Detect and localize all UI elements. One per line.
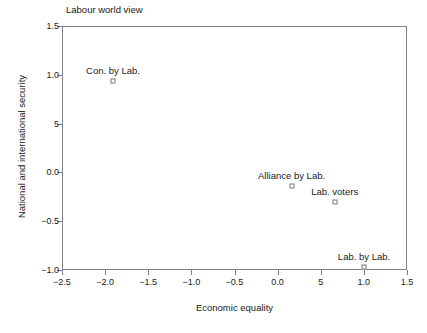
x-tick-label: −1.0 [182, 277, 200, 287]
x-tick-mark [191, 270, 192, 275]
data-point-marker[interactable] [111, 78, 116, 83]
y-axis-label: National and international security [16, 25, 27, 269]
data-point-marker[interactable] [332, 199, 337, 204]
data-point-marker[interactable] [362, 265, 367, 270]
y-tick-label: −0.5 [41, 216, 59, 226]
y-tick-label: 5 [54, 119, 59, 129]
x-tick-label: −0.5 [226, 277, 244, 287]
x-tick-mark [62, 270, 63, 275]
x-tick-mark [321, 270, 322, 275]
x-tick-label: −2.5 [53, 277, 71, 287]
x-tick-mark [105, 270, 106, 275]
data-point-label: Lab. by Lab. [338, 251, 390, 262]
data-point-marker[interactable] [289, 184, 294, 189]
y-tick-label: 1.0 [46, 70, 59, 80]
x-axis-label: Economic equality [62, 302, 407, 313]
x-tick-mark [278, 270, 279, 275]
x-tick-mark [148, 270, 149, 275]
x-tick-label: 1.5 [401, 277, 414, 287]
x-tick-mark [235, 270, 236, 275]
data-point-label: Lab. voters [311, 186, 358, 197]
x-tick-label: 0.0 [271, 277, 284, 287]
x-tick-mark [364, 270, 365, 275]
data-point-label: Alliance by Lab. [258, 170, 325, 181]
y-tick-label: −1.0 [41, 265, 59, 275]
chart-title: Labour world view [66, 4, 143, 15]
y-tick-label: 0.0 [46, 167, 59, 177]
x-tick-label: −1.5 [139, 277, 157, 287]
scatter-chart: Labour world view Con. by Lab.Alliance b… [0, 0, 427, 333]
x-tick-mark [407, 270, 408, 275]
y-tick-label: 1.5 [46, 21, 59, 31]
x-tick-label: 5 [318, 277, 323, 287]
x-tick-label: 1.0 [358, 277, 371, 287]
plot-area: Con. by Lab.Alliance by Lab.Lab. votersL… [62, 26, 407, 270]
data-point-label: Con. by Lab. [86, 65, 140, 76]
x-tick-label: −2.0 [96, 277, 114, 287]
